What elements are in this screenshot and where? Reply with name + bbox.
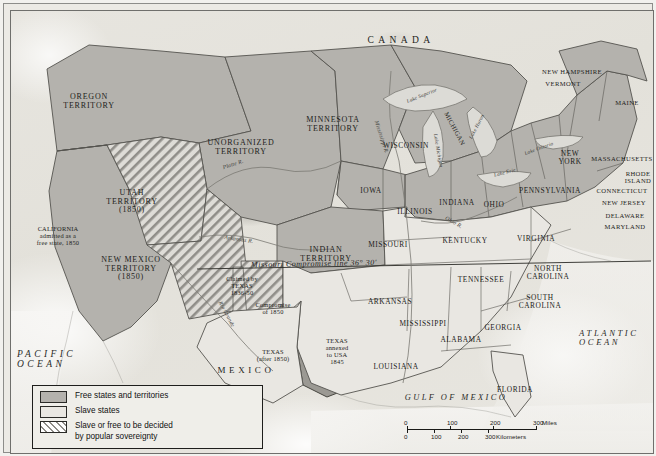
scale-miles-tick-100: 100	[447, 419, 458, 426]
scale-miles-unit: Miles	[542, 419, 557, 426]
legend-label-slave: Slave states	[75, 406, 120, 417]
map-frame-outer: OREGON TERRITORYUTAH TERRITORY (1850)NEW…	[3, 3, 653, 453]
scale-miles-labels: 0100200300Miles	[407, 417, 537, 426]
legend-swatch-pop	[40, 421, 67, 433]
legend-row-pop: Slave or free to be decided by popular s…	[40, 421, 256, 442]
scale-km-tick-100: 100	[431, 433, 442, 440]
map-legend: Free states and territoriesSlave statesS…	[32, 385, 263, 449]
legend-row-slave: Slave states	[40, 406, 256, 418]
map-frame-inner: OREGON TERRITORYUTAH TERRITORY (1850)NEW…	[10, 10, 654, 454]
legend-swatch-free	[40, 391, 67, 403]
legend-swatch-slave	[40, 406, 67, 418]
legend-label-pop: Slave or free to be decided by popular s…	[75, 421, 173, 442]
scale-km-tick-0: 0	[404, 433, 408, 440]
scale-bar: 0100200300Miles 0100200300Kilometers	[407, 417, 537, 442]
scale-axis	[407, 426, 537, 433]
scale-km-unit: Kilometers	[496, 433, 526, 440]
legend-label-free: Free states and territories	[75, 391, 168, 402]
historical-map-figure: OREGON TERRITORYUTAH TERRITORY (1850)NEW…	[0, 0, 656, 456]
scale-km-tick-300: 300	[485, 433, 496, 440]
scale-miles-tick-0: 0	[404, 419, 408, 426]
scale-miles-tick-200: 200	[490, 419, 501, 426]
scale-km-labels: 0100200300Kilometers	[407, 433, 537, 442]
scale-km-tick-200: 200	[458, 433, 469, 440]
legend-row-free: Free states and territories	[40, 391, 256, 403]
